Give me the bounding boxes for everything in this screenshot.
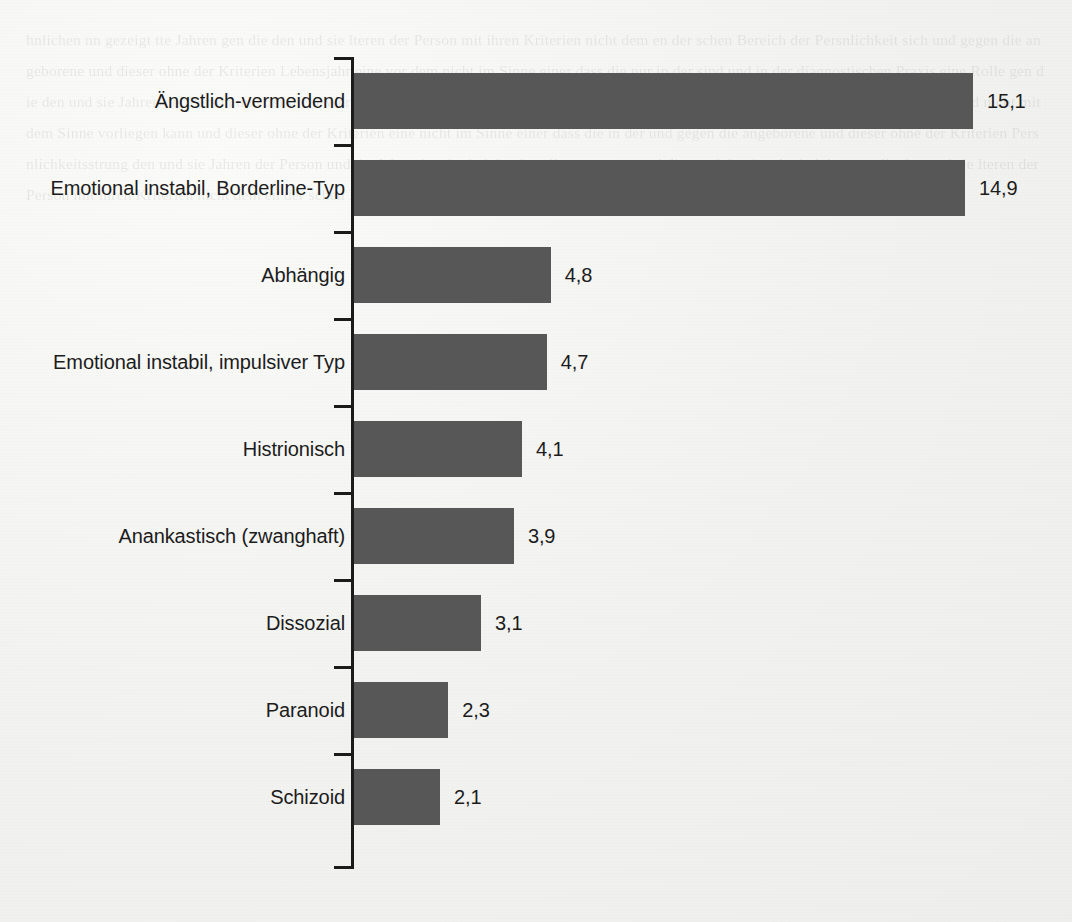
bar-value-label: 15,1 (987, 89, 1026, 112)
figure-page: hnlichen nn gezeigt tte Jahren gen die d… (0, 0, 1072, 922)
category-label: Dissozial (266, 611, 345, 634)
bar-value-label: 14,9 (979, 176, 1018, 199)
bar[interactable] (354, 508, 514, 564)
bar[interactable] (354, 334, 547, 390)
bar[interactable] (354, 595, 481, 651)
bar[interactable] (354, 769, 440, 825)
bar-row: Histrionisch 4,1 (0, 405, 1072, 492)
bar-value-label: 4,7 (561, 350, 589, 373)
bar[interactable] (354, 73, 973, 129)
category-label: Emotional instabil, Borderline-Typ (50, 176, 345, 199)
category-label: Emotional instabil, impulsiver Typ (53, 350, 345, 373)
bar[interactable] (354, 682, 448, 738)
bar-row: Emotional instabil, Borderline-Typ 14,9 (0, 144, 1072, 231)
bar-value-label: 4,1 (536, 437, 564, 460)
axis-tick (334, 866, 353, 869)
bar-row: Abhängig 4,8 (0, 231, 1072, 318)
bar-row: Ängstlich-vermeidend 15,1 (0, 57, 1072, 144)
category-label: Paranoid (266, 698, 345, 721)
bar-value-label: 4,8 (565, 263, 593, 286)
bar-row: Dissozial 3,1 (0, 579, 1072, 666)
bar-row: Schizoid 2,1 (0, 753, 1072, 840)
category-label: Anankastisch (zwanghaft) (118, 524, 345, 547)
bar[interactable] (354, 247, 551, 303)
bar-row: Paranoid 2,3 (0, 666, 1072, 753)
category-label: Ängstlich-vermeidend (155, 89, 345, 112)
bar[interactable] (354, 160, 965, 216)
bar-value-label: 2,1 (454, 785, 482, 808)
bar-value-label: 2,3 (462, 698, 490, 721)
bar-value-label: 3,1 (495, 611, 523, 634)
bar-row: Emotional instabil, impulsiver Typ 4,7 (0, 318, 1072, 405)
category-label: Histrionisch (243, 437, 345, 460)
category-label: Abhängig (261, 263, 345, 286)
bar[interactable] (354, 421, 522, 477)
category-label: Schizoid (270, 785, 345, 808)
bar-row: Anankastisch (zwanghaft) 3,9 (0, 492, 1072, 579)
horizontal-bar-chart: Ängstlich-vermeidend 15,1 Emotional inst… (0, 0, 1072, 922)
bar-value-label: 3,9 (528, 524, 556, 547)
